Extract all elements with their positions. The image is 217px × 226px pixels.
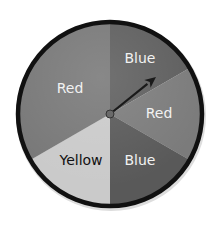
sector-label: Red: [146, 105, 173, 121]
sector-label: Red: [57, 80, 84, 96]
spinner: BlueRedBlueYellowRed: [0, 0, 217, 226]
sector-label: Blue: [125, 50, 156, 66]
spinner-hub: [106, 110, 114, 118]
sector-label: Blue: [125, 152, 156, 168]
sector-label: Yellow: [58, 152, 102, 168]
